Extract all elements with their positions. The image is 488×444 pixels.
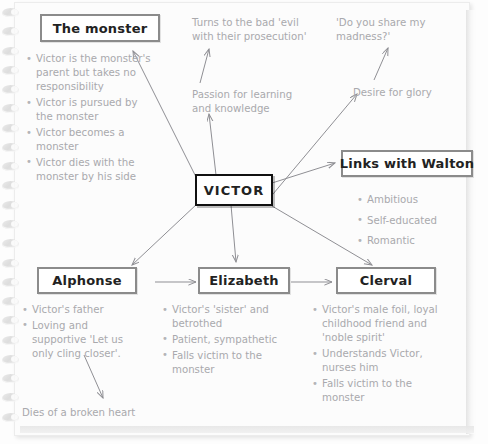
list-item: Victor is pursued by the monster	[26, 96, 156, 124]
list-item: Falls victim to the monster	[312, 377, 452, 405]
list-item: Patient, sympathetic	[162, 333, 297, 347]
node-box-the-monster[interactable]: The monster	[40, 14, 160, 42]
node-box-alphonse[interactable]: Alphonse	[37, 267, 137, 294]
spiral-ring	[2, 104, 19, 113]
node-title-clerval: Clerval	[360, 273, 412, 288]
list-item: Self-educated	[357, 211, 477, 230]
annotation-passion-for-learning: Passion for learning and knowledge	[192, 88, 310, 116]
node-title-the-monster: The monster	[53, 21, 148, 36]
spiral-ring	[2, 143, 19, 152]
spiral-ring	[2, 239, 19, 248]
annotation-desire-for-glory: Desire for glory	[353, 86, 463, 100]
bullet-list-clerval: Victor's male foil, loyal childhood frie…	[312, 303, 452, 407]
page-bottom-band	[20, 426, 474, 433]
spiral-ring	[2, 47, 19, 56]
node-title-elizabeth: Elizabeth	[209, 273, 279, 288]
spiral-ring	[2, 181, 19, 190]
mind-map-page: The monster Victor is the monster's pare…	[0, 0, 488, 444]
node-box-victor[interactable]: VICTOR	[195, 174, 273, 206]
list-item: Victor's male foil, loyal childhood frie…	[312, 303, 452, 346]
list-item: Understands Victor, nurses him	[312, 347, 452, 375]
bullet-list-the-monster: Victor is the monster's parent but takes…	[26, 52, 156, 186]
list-item: Victor dies with the monster by his side	[26, 156, 156, 184]
spiral-binding	[0, 0, 22, 444]
spiral-ring	[2, 355, 19, 364]
node-box-elizabeth[interactable]: Elizabeth	[198, 267, 290, 294]
spiral-ring	[2, 27, 19, 36]
spiral-ring	[2, 278, 19, 287]
list-item: Romantic	[357, 231, 477, 250]
spiral-ring	[2, 259, 19, 268]
spiral-ring	[2, 85, 19, 94]
spiral-ring	[2, 297, 19, 306]
list-item: Falls victim to the monster	[162, 349, 297, 377]
bullet-list-elizabeth: Victor's 'sister' and betrothed Patient,…	[162, 303, 297, 379]
annotation-dies-of-a-broken-heart: Dies of a broken heart	[22, 406, 172, 420]
spiral-ring	[2, 8, 19, 17]
bullet-list-alphonse: Victor's father Loving and supportive 'L…	[22, 303, 142, 363]
spiral-ring	[2, 201, 19, 210]
node-title-victor: VICTOR	[204, 183, 264, 198]
list-item: Victor is the monster's parent but takes…	[26, 52, 156, 95]
spiral-ring	[2, 220, 19, 229]
node-title-links-with-walton: Links with Walton	[340, 156, 474, 171]
node-title-alphonse: Alphonse	[52, 273, 121, 288]
spiral-ring	[2, 162, 19, 171]
spiral-ring	[2, 316, 19, 325]
annotation-turns-to-the-bad: Turns to the bad 'evil with their prosec…	[192, 16, 312, 44]
spiral-ring	[2, 336, 19, 345]
list-item: Victor's 'sister' and betrothed	[162, 303, 297, 331]
spiral-ring	[2, 374, 19, 383]
annotation-do-you-share-my-madness: 'Do you share my madness?'	[336, 16, 446, 44]
spiral-ring	[2, 124, 19, 133]
list-item: Ambitious	[357, 190, 477, 209]
node-box-links-with-walton[interactable]: Links with Walton	[341, 150, 473, 177]
spiral-ring	[2, 413, 19, 422]
list-item: Victor becomes a monster	[26, 126, 156, 154]
bullet-list-links-with-walton: Ambitious Self-educated Romantic	[357, 190, 477, 252]
list-item: Victor's father	[22, 303, 142, 317]
spiral-ring	[2, 393, 19, 402]
list-item: Loving and supportive 'Let us only cling…	[22, 319, 142, 362]
spiral-ring	[2, 66, 19, 75]
node-box-clerval[interactable]: Clerval	[336, 267, 436, 294]
